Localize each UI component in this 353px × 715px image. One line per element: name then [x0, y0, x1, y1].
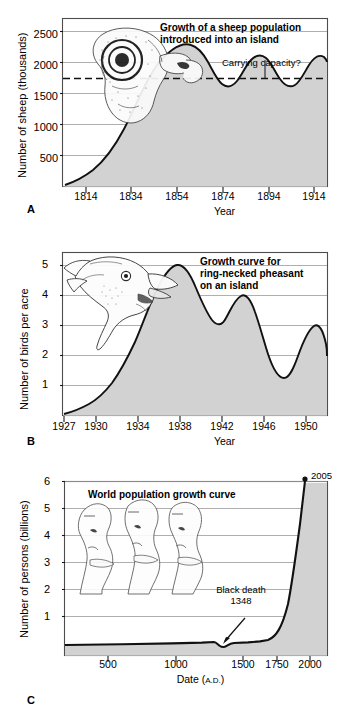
panel-b-letter: B [27, 435, 35, 447]
panel-b-xtick-1950: 1950 [294, 420, 317, 432]
panel-c-plot [62, 472, 353, 672]
panel-a-letter: A [27, 203, 35, 215]
panel-c-title: World population growth curve [88, 489, 318, 501]
panel-a-sheep-population: Number of sheep (thousands) 2500 2000 15… [0, 0, 353, 230]
panel-b-pheasant-population: Number of birds per acre 5 4 3 2 1 [0, 230, 353, 462]
panel-b-ytick-5: 5 [24, 258, 48, 270]
panel-a-x-axis-label: Year [0, 205, 353, 217]
panel-a-carrying-capacity-annotation: Carrying capacity? [222, 57, 342, 68]
panel-a-xtick-1914: 1914 [302, 190, 325, 202]
panel-c-ytick-3: 3 [26, 556, 50, 568]
panel-a-xtick-1874: 1874 [211, 190, 234, 202]
panel-c-xtick-1000: 1000 [164, 658, 187, 670]
panel-b-xtick-1946: 1946 [252, 420, 275, 432]
panel-c-ytick-5: 5 [26, 502, 50, 514]
panel-a-xtick-1834: 1834 [119, 190, 142, 202]
panel-c-xtick-1750: 1750 [265, 658, 288, 670]
panel-c-world-population: Number of persons (billions) 6 5 4 3 2 1 [0, 462, 353, 715]
panel-c-xtick-2000: 2000 [298, 658, 321, 670]
panel-b-x-axis-label: Year [0, 435, 353, 447]
panel-b-xtick-1934: 1934 [126, 420, 149, 432]
panel-a-ytick-2500: 2500 [14, 28, 58, 40]
panel-c-endpoint-dot [302, 476, 307, 481]
panel-b-title: Growth curve for ring-necked pheasant on… [200, 256, 350, 293]
panel-a-xtick-1854: 1854 [165, 190, 188, 202]
panel-c-xtick-1500: 1500 [231, 658, 254, 670]
panel-c-x-axis-label: Date (A.D.) [0, 673, 353, 685]
panel-b-ytick-2: 2 [24, 348, 48, 360]
panel-a-xtick-1814: 1814 [74, 190, 97, 202]
panel-c-letter: C [27, 694, 35, 706]
panel-b-xtick-1938: 1938 [168, 420, 191, 432]
panel-a-title: Growth of a sheep population introduced … [160, 22, 340, 46]
panel-a-xtick-1894: 1894 [257, 190, 280, 202]
panel-c-ytick-4: 4 [26, 529, 50, 541]
panel-c-xtick-500: 500 [99, 658, 117, 670]
panel-c-x-axis-label-close: ) [221, 673, 225, 685]
panel-c-ytick-1: 1 [26, 610, 50, 622]
panel-b-xtick-1930: 1930 [84, 420, 107, 432]
panel-c-ytick-6: 6 [26, 475, 50, 487]
panel-c-black-death-annotation: Black death 1348 [192, 584, 290, 607]
panel-b-ytick-4: 4 [24, 288, 48, 300]
panel-b-xtick-1942: 1942 [210, 420, 233, 432]
panel-b-xtick-1927: 1927 [52, 420, 75, 432]
panel-a-ytick-2000: 2000 [14, 59, 58, 71]
panel-c-2005-annotation: 2005 [311, 470, 351, 481]
panel-c-ytick-2: 2 [26, 583, 50, 595]
panel-c-x-axis-label-ad: A.D. [205, 676, 221, 685]
crowd-of-people-illustration [78, 500, 202, 594]
panel-c-x-axis-label-main: Date ( [177, 673, 206, 685]
panel-a-ytick-1000: 1000 [14, 121, 58, 133]
panel-a-ytick-1500: 1500 [14, 90, 58, 102]
panel-a-ytick-500: 500 [14, 152, 58, 164]
panel-b-ytick-1: 1 [24, 378, 48, 390]
panel-b-ytick-3: 3 [24, 318, 48, 330]
